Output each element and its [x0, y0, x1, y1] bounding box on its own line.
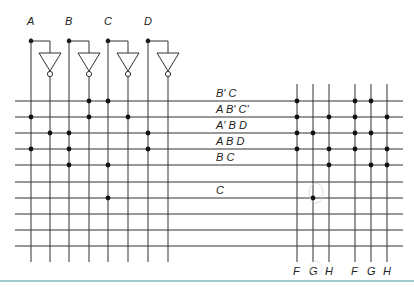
product-term-lines: [15, 101, 403, 246]
inverter-icon: [117, 53, 139, 71]
or-connection-dot: [327, 163, 332, 168]
product-term-label: B C: [216, 151, 234, 163]
output-label: G: [367, 265, 376, 277]
or-connection-dot: [369, 131, 374, 136]
output-label: F: [351, 265, 359, 277]
or-connection-dot: [295, 131, 300, 136]
product-term-label: C: [216, 184, 224, 196]
and-connection-dot: [126, 115, 131, 120]
output-label: H: [325, 265, 333, 277]
inverter-icon: [39, 53, 61, 71]
or-connection-dot: [385, 147, 390, 152]
output-column-lines: FGHFGH: [293, 84, 391, 277]
product-term-label: B' C: [216, 87, 236, 99]
or-connection-dot: [353, 115, 358, 120]
or-connection-dot: [385, 163, 390, 168]
pla-diagram: ABCD FGHFGH B' CA B' C'A' B DA B DB CC: [0, 0, 414, 287]
and-connection-dot: [29, 147, 34, 152]
or-connection-dot: [369, 99, 374, 104]
and-connection-dot: [146, 147, 151, 152]
product-term-label: A B D: [215, 135, 244, 147]
and-connection-dot: [106, 163, 111, 168]
or-connection-dot: [311, 196, 316, 201]
and-connection-dot: [87, 115, 92, 120]
input-c: C: [104, 15, 139, 77]
inverter-icon: [157, 53, 179, 71]
or-connection-dot: [311, 131, 316, 136]
or-connection-dot: [295, 99, 300, 104]
and-connection-dot: [106, 196, 111, 201]
or-connection-dot: [353, 131, 358, 136]
output-label: H: [383, 265, 391, 277]
or-connection-dot: [353, 147, 358, 152]
input-d: D: [144, 15, 179, 77]
input-label: C: [104, 15, 112, 27]
and-connection-dot: [87, 99, 92, 104]
and-connection-dot: [29, 115, 34, 120]
or-connection-dot: [327, 115, 332, 120]
and-connection-dot: [67, 131, 72, 136]
output-label: F: [293, 265, 301, 277]
and-connection-dot: [146, 131, 151, 136]
input-buffers: ABCD: [26, 15, 179, 77]
input-label: B: [65, 15, 72, 27]
or-connection-dot: [353, 99, 358, 104]
or-connection-dot: [385, 115, 390, 120]
or-connection-dot: [295, 147, 300, 152]
or-connection-dot: [295, 115, 300, 120]
and-connection-dot: [67, 147, 72, 152]
input-label: A: [26, 15, 34, 27]
and-connection-dot: [67, 163, 72, 168]
product-term-label: A' B D: [215, 119, 247, 131]
input-b: B: [65, 15, 100, 77]
inverter-icon: [78, 53, 100, 71]
and-connection-dot: [106, 99, 111, 104]
or-connection-dot: [327, 147, 332, 152]
product-term-label: A B' C': [215, 103, 249, 115]
product-term-labels: B' CA B' C'A' B DA B DB CC: [215, 87, 249, 196]
or-connection-dot: [369, 163, 374, 168]
and-connection-dot: [48, 131, 53, 136]
input-label: D: [144, 15, 152, 27]
